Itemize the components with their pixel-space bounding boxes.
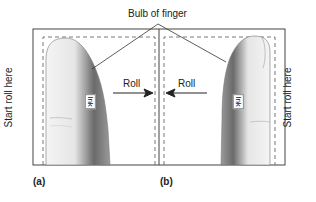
leader-line-right — [158, 24, 226, 62]
right-start-roll-label: Start roll here — [282, 67, 293, 127]
panel-b-label: (b) — [160, 176, 173, 187]
right-ink-label: Ink — [233, 94, 244, 109]
left-roll-label: Roll — [123, 78, 140, 89]
left-ink-label: Ink — [85, 94, 96, 109]
left-start-roll-label: Start roll here — [3, 67, 14, 127]
roll-arrow-right — [113, 89, 153, 97]
right-roll-label: Roll — [178, 78, 195, 89]
left-finger — [46, 38, 110, 165]
bulb-of-finger-label: Bulb of finger — [128, 8, 187, 19]
leader-line-left — [92, 24, 158, 69]
right-finger — [221, 36, 270, 165]
roll-arrow-left — [166, 89, 207, 97]
fingerprint-roll-diagram — [0, 0, 316, 202]
panel-a-label: (a) — [33, 176, 45, 187]
